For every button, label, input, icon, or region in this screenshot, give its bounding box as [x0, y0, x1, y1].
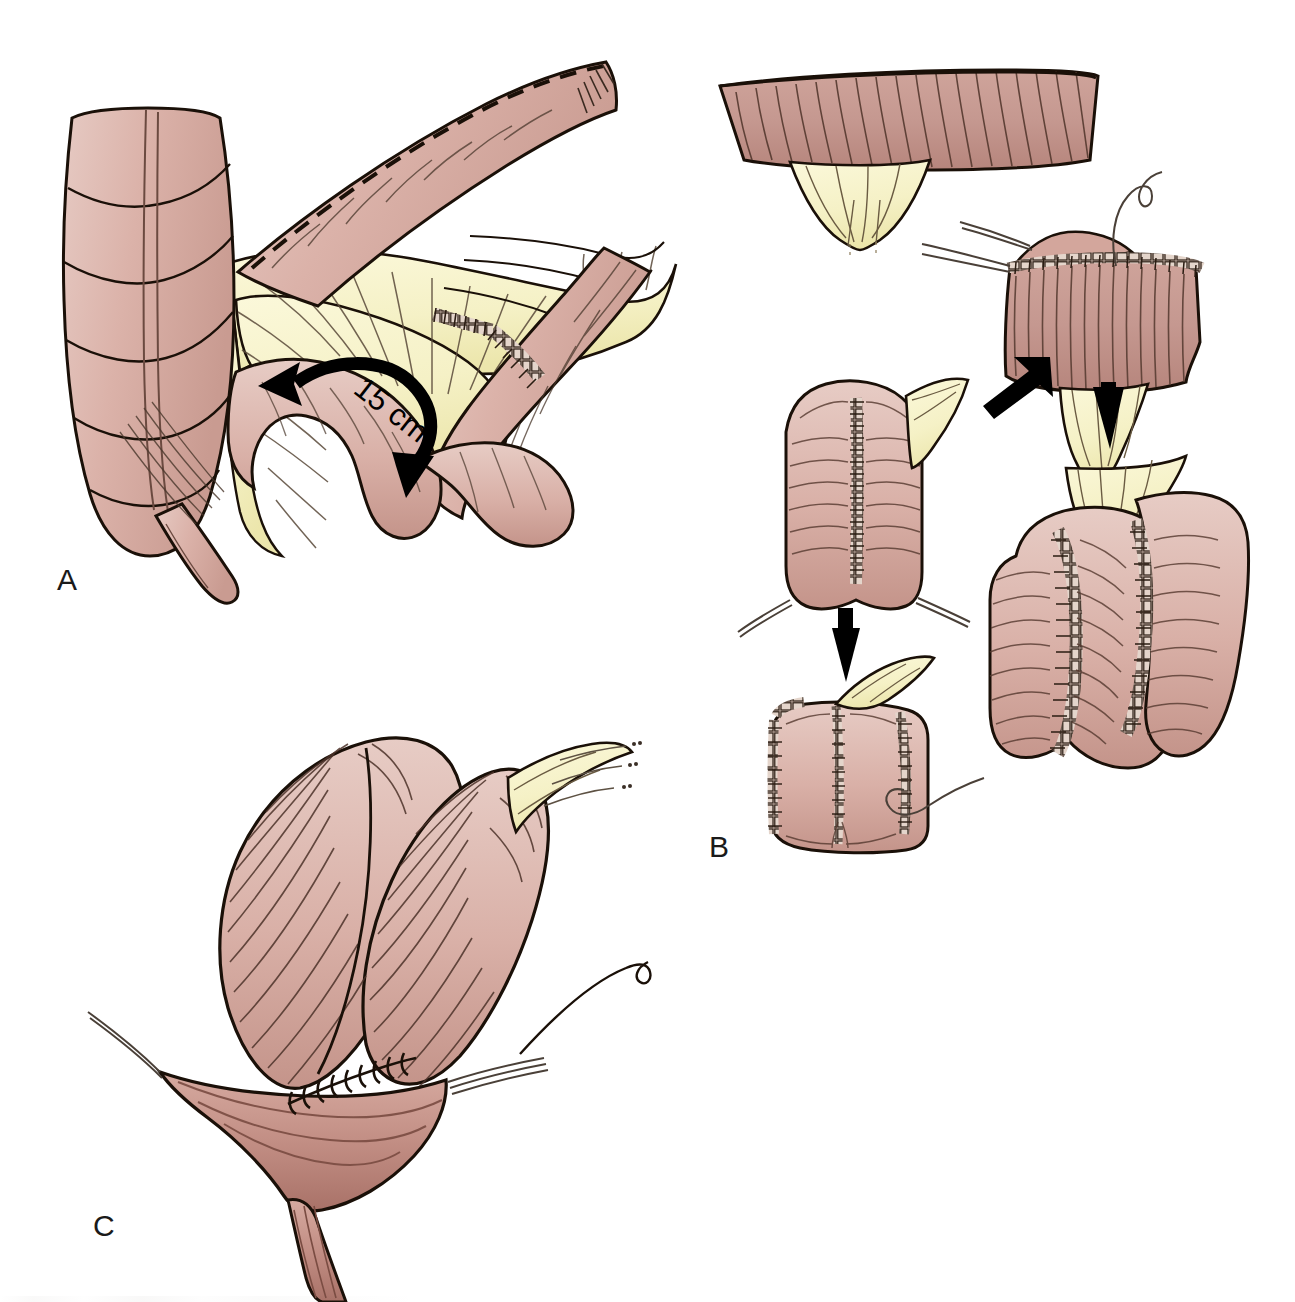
panel-label-c: C [93, 1211, 115, 1241]
b4-suture-right [900, 712, 906, 834]
arrow-down-right-tail [1101, 382, 1116, 392]
surgical-illustration-canvas [0, 0, 1295, 1302]
b4-suture-left [773, 720, 775, 834]
figure-root: A B C 15 cm [0, 0, 1295, 1302]
arrow-down-left-col-tail [838, 608, 853, 632]
panel-label-b: B [709, 832, 730, 862]
b1-mucosal-surface [720, 70, 1098, 170]
panel-label-a: A [57, 565, 78, 595]
